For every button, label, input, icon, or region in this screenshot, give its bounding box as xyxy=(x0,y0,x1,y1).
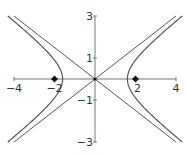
x-tick-label: 2 xyxy=(134,82,141,95)
hyperbola-chart: −4−22431−1−3 xyxy=(0,0,186,157)
y-tick-label: −3 xyxy=(77,136,93,149)
y-tick-label: 3 xyxy=(86,10,93,23)
center-point xyxy=(93,77,96,80)
x-tick-label: 4 xyxy=(173,82,180,95)
y-tick-label: 1 xyxy=(86,52,93,65)
x-tick-label: −2 xyxy=(46,82,62,95)
y-tick-label: −1 xyxy=(77,94,93,107)
x-tick-label: −4 xyxy=(6,82,22,95)
